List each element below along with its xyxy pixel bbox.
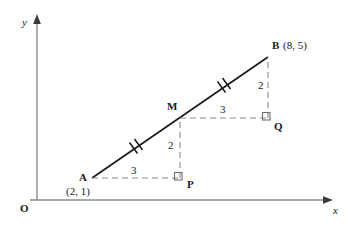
right-angle-marker-p	[175, 173, 183, 181]
measurement-label-ap: 3	[131, 165, 137, 176]
point-label-b: B	[272, 40, 279, 51]
right-angle-marker-q	[263, 113, 271, 121]
point-label-a: A	[79, 172, 87, 183]
point-label-q: Q	[274, 121, 283, 132]
measurement-label-bq: 2	[258, 80, 264, 91]
point-coord-b: (8, 5)	[283, 40, 307, 51]
point-label-m: M	[167, 101, 177, 112]
y-axis-arrowhead	[33, 14, 41, 24]
y-axis-label: y	[22, 17, 27, 28]
x-axis-label: x	[333, 205, 338, 216]
measurement-label-mp: 2	[168, 140, 174, 151]
point-coord-a: (2, 1)	[66, 186, 90, 197]
x-axis-arrowhead	[323, 196, 333, 204]
measurement-label-mq: 3	[220, 104, 226, 115]
point-label-p: P	[187, 179, 194, 190]
geometry-diagram: y x O A (2, 1) B (8, 5) M P Q 3 2 3 2	[0, 0, 347, 235]
diagram-canvas	[0, 0, 347, 235]
origin-label: O	[20, 203, 29, 214]
